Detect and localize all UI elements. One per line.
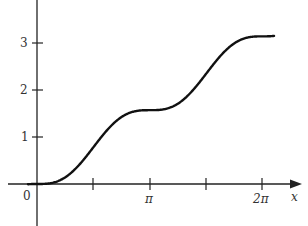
y-tick-label-3: 3 — [20, 36, 28, 50]
x-tick-label-pi: π — [144, 192, 154, 206]
y-tick-label-2: 2 — [20, 83, 28, 97]
x-tick-label-2pi: 2π — [252, 192, 270, 206]
chart: 3 2 1 0 π 2π x — [0, 0, 308, 226]
function-curve — [28, 36, 274, 184]
y-tick-label-1: 1 — [21, 130, 29, 144]
x-axis-label: x — [291, 190, 298, 204]
origin-label: 0 — [23, 189, 31, 203]
x-axis-arrow-icon — [290, 180, 302, 189]
